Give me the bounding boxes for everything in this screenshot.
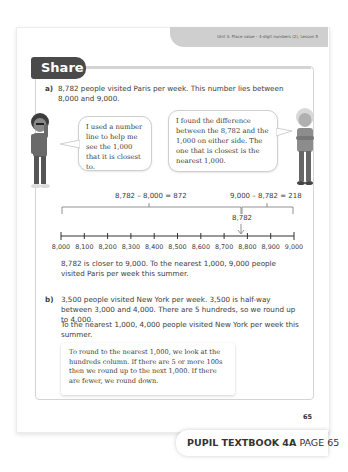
unit-header-tab: Unit 3: Place value – 4-digit numbers (2…	[170, 27, 328, 47]
part-b-label: b)	[45, 295, 53, 305]
bubble-tail-right-icon	[276, 128, 292, 138]
tick-label: 8,400	[145, 243, 163, 251]
speech-bubble-left: I used a number line to help me see the …	[78, 116, 152, 171]
tick-label: 8,300	[122, 243, 140, 251]
part-a-intro-text: 8,782 people visited Paris per week. Thi…	[58, 84, 288, 104]
unit-label: Unit 3: Place value – 4-digit numbers (2…	[217, 34, 318, 39]
speech-bubble-right: I found the difference between the 8,782…	[168, 110, 278, 172]
tick-label: 8,900	[262, 243, 280, 251]
marker-label: 8,782	[232, 213, 252, 223]
footer-label: PUPIL TEXTBOOK 4A PAGE 65	[187, 437, 339, 448]
tick-label: 8,100	[75, 243, 93, 251]
boy-character-icon	[24, 112, 58, 190]
part-b-text2: To the nearest 1,000, 4,000 people visit…	[61, 320, 301, 340]
tick-label: 8,700	[215, 243, 233, 251]
part-a-conclusion: 8,782 is closer to 9,000. To the nearest…	[61, 259, 301, 279]
part-a-label: a)	[45, 84, 53, 93]
girl-character-icon	[290, 106, 320, 188]
footer-book-title: PUPIL TEXTBOOK 4A	[187, 437, 296, 448]
tick-label: 8,600	[192, 243, 210, 251]
tick-label: 8,800	[238, 243, 256, 251]
tick-label: 8,200	[98, 243, 116, 251]
rounding-rule-box: To round to the nearest 1,000, we look a…	[61, 343, 235, 395]
tick-label: 8,000	[52, 243, 70, 251]
tick-label: 9,000	[285, 243, 303, 251]
footer-page: PAGE 65	[299, 437, 339, 448]
footer-tab: PUPIL TEXTBOOK 4A PAGE 65	[176, 430, 328, 456]
tick-label: 8,500	[168, 243, 186, 251]
share-section-title: Share	[31, 57, 86, 79]
bubble-tail-left-icon	[60, 140, 80, 150]
share-header-line	[86, 67, 311, 69]
page-number: 65	[303, 413, 312, 421]
